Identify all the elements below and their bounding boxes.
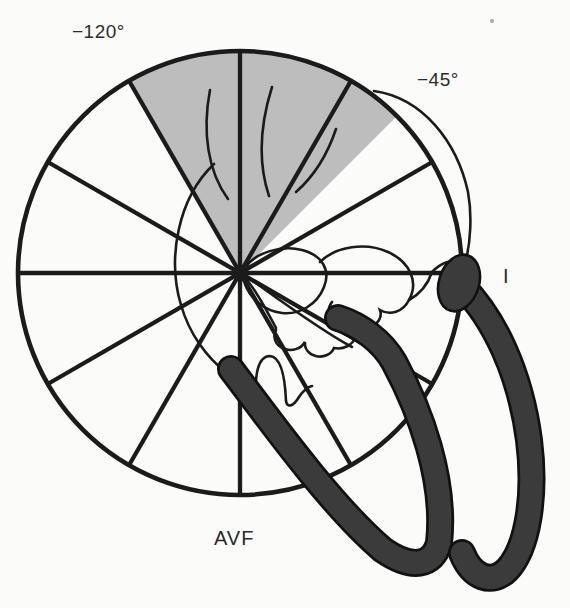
label-minus-45: −45°: [417, 69, 459, 90]
label-minus-120: −120°: [72, 21, 125, 42]
label-lead-i: I: [503, 265, 510, 287]
scan-speck: [490, 19, 494, 23]
outer-fascicle-loop: [461, 285, 531, 578]
label-lead-avf: AVF: [214, 527, 254, 549]
scanned-figure-page: −120° −45° I AVF: [0, 0, 570, 608]
hexaxial-diagram: −120° −45° I AVF: [0, 0, 570, 608]
